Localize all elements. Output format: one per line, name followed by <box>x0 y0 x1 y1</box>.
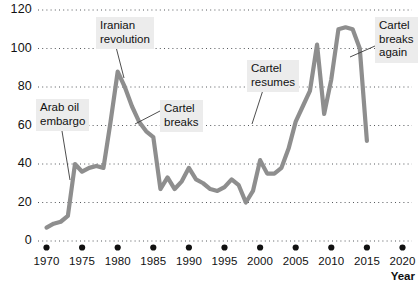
x-tick-label-1985: 1985 <box>133 255 173 267</box>
annotation-line: Cartel <box>164 102 199 116</box>
data-line-group <box>47 27 367 227</box>
annotation-line: Cartel <box>251 62 295 76</box>
x-tick-label-2020: 2020 <box>383 255 419 267</box>
x-tick-label-2000: 2000 <box>240 255 280 267</box>
x-tick-label-1975: 1975 <box>62 255 102 267</box>
x-tick-label-2005: 2005 <box>276 255 316 267</box>
annotation-line: Cartel <box>379 19 414 33</box>
y-tick-label-40: 40 <box>2 156 32 170</box>
annotation-line: resumes <box>251 76 295 90</box>
annotation-cartel-breaks: Cartelbreaks <box>160 100 203 132</box>
x-tick-label-1970: 1970 <box>27 255 67 267</box>
x-tick-label-1990: 1990 <box>169 255 209 267</box>
y-tick-label-120: 120 <box>2 2 32 16</box>
x-tick-label-1980: 1980 <box>98 255 138 267</box>
x-tick-label-1995: 1995 <box>205 255 245 267</box>
annotation-arab-oil-embargo: Arab oilembargo <box>36 99 89 131</box>
annotation-line: Arab oil <box>40 101 85 115</box>
x-tick-label-2010: 2010 <box>311 255 351 267</box>
y-tick-label-20: 20 <box>2 195 32 209</box>
annotation-cartel-resumes: Cartelresumes <box>247 60 299 92</box>
y-tick-label-100: 100 <box>2 41 32 55</box>
oil-price-chart: 020406080100120 197019751980198519901995… <box>0 0 419 284</box>
annotation-cartel-breaks-again: Cartelbreaksagain <box>375 17 418 63</box>
annotation-line: revolution <box>100 33 150 47</box>
annotation-iranian-revolution: Iranianrevolution <box>96 17 154 49</box>
x-axis-title: Year <box>391 270 415 282</box>
annotation-leader-lines-group <box>62 46 375 180</box>
annotation-line: breaks <box>379 33 414 47</box>
y-tick-label-80: 80 <box>2 79 32 93</box>
annotation-line: embargo <box>40 115 85 129</box>
y-tick-label-60: 60 <box>2 118 32 132</box>
gridlines-group <box>38 10 412 241</box>
y-tick-label-0: 0 <box>2 233 32 247</box>
chart-plot-area <box>0 0 419 284</box>
annotation-line: breaks <box>164 116 199 130</box>
annotation-line: Iranian <box>100 19 150 33</box>
annotation-line: again <box>379 46 414 60</box>
x-axis-markers-group <box>43 244 405 250</box>
x-tick-label-2015: 2015 <box>347 255 387 267</box>
